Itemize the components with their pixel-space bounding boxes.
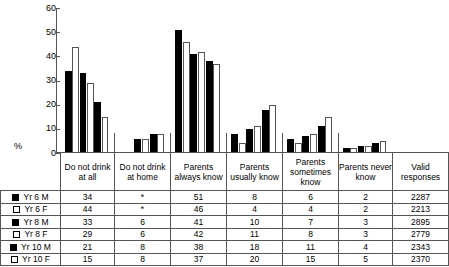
table-cell-r0-c1: * — [115, 191, 171, 204]
table-row: Yr 8 F2964211832779 — [1, 228, 449, 241]
legend-label: Yr 6 M — [23, 192, 48, 202]
table-cell-r4-c6: 2343 — [393, 241, 449, 254]
data-table: Do not drink at all Do not drink at home… — [0, 152, 449, 266]
table-cell-r2-c2: 41 — [171, 216, 227, 229]
table-cell-r2-c0: 33 — [61, 216, 115, 229]
table-cell-r2-c5: 3 — [339, 216, 393, 229]
bar-yr-10-m-4 — [318, 126, 325, 153]
y-axis-tick-mark-50 — [56, 32, 60, 33]
bar-yr-10-m-2 — [206, 61, 213, 153]
legend-swatch-icon — [12, 194, 19, 201]
y-axis-tick-mark-30 — [56, 81, 60, 82]
bar-yr-8-f-4 — [310, 134, 317, 153]
group-separator-1 — [114, 133, 115, 153]
col-header-do-not-drink-at-all: Do not drink at all — [61, 153, 115, 191]
bar-yr-6-m-3 — [231, 134, 238, 153]
bar-yr-10-f-1 — [157, 134, 164, 153]
table-cell-r5-c4: 15 — [283, 253, 339, 266]
table-cell-r0-c3: 8 — [227, 191, 283, 204]
table-cell-r3-c4: 8 — [283, 228, 339, 241]
bar-yr-8-m-1 — [134, 139, 141, 154]
table-cell-r5-c6: 2370 — [393, 253, 449, 266]
table-cell-r5-c2: 37 — [171, 253, 227, 266]
table-cell-r1-c0: 44 — [61, 203, 115, 216]
table-cell-r0-c0: 34 — [61, 191, 115, 204]
bar-yr-8-m-3 — [246, 129, 253, 153]
table-row: Yr 6 F44*464422213 — [1, 203, 449, 216]
bar-yr-6-f-0 — [72, 47, 79, 153]
legend-swatch-icon — [10, 244, 17, 251]
bar-group-4 — [282, 8, 338, 153]
table-header-row: Do not drink at all Do not drink at home… — [1, 153, 449, 191]
col-header-valid-responses: Valid responses — [393, 153, 449, 191]
table-cell-r2-c1: 6 — [115, 216, 171, 229]
bar-yr-6-f-2 — [183, 42, 190, 153]
bar-yr-8-f-0 — [87, 83, 94, 153]
bar-yr-8-f-3 — [254, 126, 261, 153]
bar-group-0 — [60, 8, 114, 153]
y-axis-tick-mark-60 — [56, 8, 60, 9]
legend-cell-yr-8-m: Yr 8 M — [1, 216, 61, 229]
table-cell-r0-c2: 51 — [171, 191, 227, 204]
table-cell-r2-c6: 2895 — [393, 216, 449, 229]
table-cell-r1-c5: 2 — [339, 203, 393, 216]
bar-yr-8-f-2 — [198, 52, 205, 154]
bar-yr-6-m-2 — [175, 30, 182, 153]
y-axis-tick-label-30: 30 — [22, 76, 56, 85]
table-cell-r5-c1: 8 — [115, 253, 171, 266]
table-cell-r4-c5: 4 — [339, 241, 393, 254]
group-separator-4 — [282, 133, 283, 153]
y-axis-title: % — [14, 142, 22, 151]
legend-cell-yr-10-f: Yr 10 F — [1, 253, 61, 266]
y-axis-tick-label-20: 20 — [22, 100, 56, 109]
table-cell-r2-c4: 7 — [283, 216, 339, 229]
legend-label: Yr 10 M — [21, 242, 51, 252]
y-axis-tick-label-50: 50 — [22, 28, 56, 37]
legend-cell-yr-6-m: Yr 6 M — [1, 191, 61, 204]
legend-label: Yr 8 F — [24, 229, 47, 239]
table-cell-r3-c2: 42 — [171, 228, 227, 241]
data-table-container: Do not drink at all Do not drink at home… — [0, 152, 448, 267]
bar-yr-10-m-0 — [94, 102, 101, 153]
bar-group-3 — [226, 8, 282, 153]
y-axis-tick-mark-40 — [56, 56, 60, 57]
legend-label: Yr 8 M — [23, 217, 48, 227]
table-cell-r2-c3: 10 — [227, 216, 283, 229]
legend-cell-yr-6-f: Yr 6 F — [1, 203, 61, 216]
y-axis-tick-mark-10 — [56, 129, 60, 130]
table-cell-r1-c6: 2213 — [393, 203, 449, 216]
col-header-do-not-drink-at-home: Do not drink at home — [115, 153, 171, 191]
bar-yr-8-m-4 — [302, 136, 309, 153]
y-axis-tick-mark-20 — [56, 105, 60, 106]
y-axis: 6050403020100 — [0, 0, 56, 157]
group-separator-5 — [338, 133, 339, 153]
table-cell-r1-c4: 4 — [283, 203, 339, 216]
col-header-parents-always-know: Parents always know — [171, 153, 227, 191]
table-cell-r5-c5: 5 — [339, 253, 393, 266]
bar-group-2 — [170, 8, 226, 153]
group-separator-3 — [226, 133, 227, 153]
bar-group-5 — [338, 8, 392, 153]
y-axis-tick-label-60: 60 — [22, 4, 56, 13]
table-cell-r3-c0: 29 — [61, 228, 115, 241]
bar-yr-8-f-1 — [142, 139, 149, 154]
table-cell-r3-c5: 3 — [339, 228, 393, 241]
table-cell-r1-c1: * — [115, 203, 171, 216]
table-cell-r0-c6: 2287 — [393, 191, 449, 204]
bar-yr-10-f-2 — [213, 64, 220, 153]
legend-swatch-icon — [12, 219, 19, 226]
table-cell-r4-c4: 11 — [283, 241, 339, 254]
table-cell-r5-c3: 20 — [227, 253, 283, 266]
bar-yr-10-f-4 — [325, 117, 332, 153]
table-cell-r4-c0: 21 — [61, 241, 115, 254]
table-corner-blank — [1, 153, 61, 191]
bar-yr-10-m-3 — [262, 110, 269, 154]
col-header-parents-sometimes-know: Parents sometimes know — [283, 153, 339, 191]
table-cell-r4-c2: 38 — [171, 241, 227, 254]
table-cell-r1-c2: 46 — [171, 203, 227, 216]
y-axis-tick-label-10: 10 — [22, 124, 56, 133]
bar-chart: 6050403020100 % — [0, 0, 448, 157]
table-cell-r4-c3: 18 — [227, 241, 283, 254]
table-cell-r3-c6: 2779 — [393, 228, 449, 241]
table-cell-r0-c4: 6 — [283, 191, 339, 204]
